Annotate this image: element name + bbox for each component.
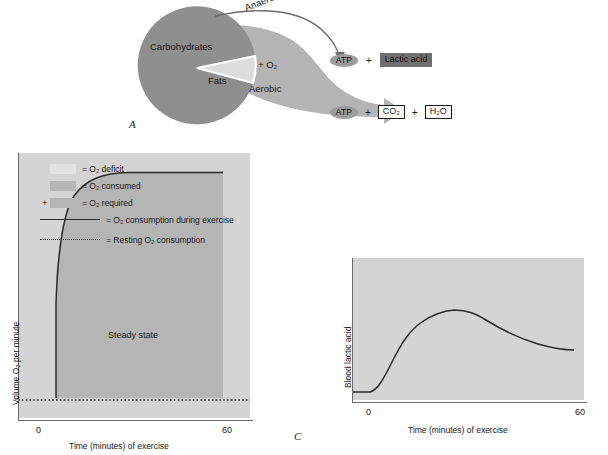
x-axis-title-left: Time (minutes) of exercise [69,441,169,451]
legend-swatch-o2-consumed [50,181,76,191]
blood-lactic-acid-curve [352,310,574,392]
blood-lactic-acid-chart: 0 60 Time (minutes) of exercise Blood la… [320,230,608,455]
steady-state-label: Steady state [108,330,158,340]
x-tick-60-right: 60 [575,407,585,417]
legend-item-o2-deficit: = O₂ deficit [40,162,234,175]
legend-swatch-o2-deficit [50,164,76,174]
atp-oval-anaerobic: ATP [330,54,358,67]
legend-label-o2-required: = O₂ required [82,198,133,208]
plot-area-right [352,258,584,400]
panel-a-letter: A [129,118,136,130]
plus-sign-anaerobic: + [366,55,372,66]
x-tick-60-left: 60 [222,425,232,435]
oxygen-consumption-chart: = O₂ deficit = O₂ consumed + = O₂ requir… [0,140,290,455]
legend-item-resting-consumption: = Resting O₂ consumption [40,233,234,246]
legend-dotted-line-marker [40,239,100,240]
legend-label-resting-consumption: = Resting O₂ consumption [106,235,205,245]
legend-label-o2-deficit: = O₂ deficit [82,164,124,174]
legend-label-consumption-during-exercise: = O₂ consumption during exercise [106,215,234,225]
aerobic-products: ATP + CO₂ + H₂O [330,105,452,119]
fats-label: Fats [208,75,226,86]
legend-plus-sign: + [40,198,50,208]
atp-oval-aerobic: ATP [330,106,358,119]
legend-label-o2-consumed: = O₂ consumed [82,181,141,191]
co2-box: CO₂ [378,105,405,119]
panel-a-diagram: Carbohydrates Fats + O₂ Aerobic Anaerobi… [0,0,608,140]
legend-item-consumption-during-exercise: = O₂ consumption during exercise [40,213,234,226]
y-axis-title-right: Blood lactic acid [343,327,353,388]
metabolic-pathway-svg [0,0,608,140]
x-axis-title-right: Time (minutes) of exercise [408,425,508,435]
x-axis-right [352,402,587,403]
lactic-acid-box: Lactic acid [380,53,433,67]
plus-sign-aerobic-2: + [412,107,418,118]
plus-sign-aerobic-1: + [365,107,371,118]
oxygen-label: + O₂ [258,59,277,70]
x-tick-0-right: 0 [366,407,371,417]
anaerobic-products: ATP + Lactic acid [330,53,432,67]
carbohydrates-label: Carbohydrates [150,41,212,52]
legend-item-o2-consumed: = O₂ consumed [40,179,234,192]
legend-swatch-o2-required [50,198,76,208]
aerobic-label: Aerobic [249,83,281,94]
x-axis-left [18,420,253,421]
y-axis-title-left: Volume O₂ per minute [11,322,21,405]
legend-item-o2-required: + = O₂ required [40,196,234,209]
h2o-box: H₂O [425,105,452,119]
legend-solid-line-marker [40,219,100,220]
x-tick-0-left: 0 [36,425,41,435]
panel-c-letter: C [294,430,301,442]
chart-legend-left: = O₂ deficit = O₂ consumed + = O₂ requir… [40,162,234,250]
